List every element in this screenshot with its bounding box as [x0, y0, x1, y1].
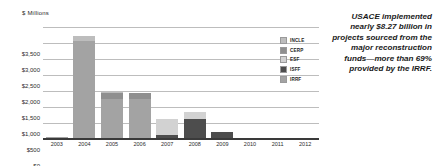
legend-item-cerp: CERP [280, 46, 326, 56]
x-axis-tick-label: 2012 [291, 141, 319, 147]
y-axis-tick-label: $1,500 [2, 115, 40, 121]
legend-swatch-icon [280, 47, 287, 54]
bar-segment-isff [184, 119, 206, 139]
chart-page: $ Millions $0$500$1,000$1,500$2,000$2,50… [0, 0, 435, 166]
legend-item-label: INCLE [290, 38, 305, 43]
legend-item-isff: ISFF [280, 65, 326, 75]
y-axis-tick-label: $2,000 [2, 99, 40, 105]
y-axis-tick-label: $3,000 [2, 67, 40, 73]
bar-chart: $ Millions $0$500$1,000$1,500$2,000$2,50… [0, 0, 330, 166]
legend-item-label: ISFF [290, 67, 301, 72]
bar-2007 [156, 27, 178, 139]
legend-item-esf: ESF [280, 55, 326, 65]
y-axis-tick-labels: $0$500$1,000$1,500$2,000$2,500$3,000$3,5… [0, 27, 40, 139]
bar-2005 [101, 27, 123, 139]
x-axis-tick-label: 2003 [43, 141, 71, 147]
bar-segment-incle [101, 91, 123, 93]
bar-segment-cerp [129, 93, 151, 99]
bar-2009 [211, 27, 233, 139]
bar-2006 [129, 27, 151, 139]
legend-swatch-icon [280, 76, 287, 83]
legend-item-label: IRRF [290, 77, 301, 82]
legend-item-label: ESF [290, 57, 299, 62]
bar-segment-irrf [73, 41, 95, 139]
legend-item-irrf: IRRF [280, 74, 326, 84]
y-axis-tick-label: $3,500 [2, 51, 40, 57]
x-axis-tick-label: 2009 [209, 141, 237, 147]
y-axis-tick-label: $1,000 [2, 131, 40, 137]
x-axis-tick-label: 2011 [264, 141, 292, 147]
bar-segment-irrf [129, 99, 151, 139]
bar-segment-incle [73, 36, 95, 41]
bar-2008 [184, 27, 206, 139]
y-axis-tick-label: $500 [2, 147, 40, 153]
bar-segment-esf [156, 119, 178, 134]
x-axis-tick-label: 2006 [126, 141, 154, 147]
x-axis-tick-label: 2005 [98, 141, 126, 147]
x-axis-tick-labels: 2003200420052006200720082009201020112012 [43, 141, 319, 153]
legend-item-label: CERP [290, 48, 303, 53]
y-axis-title: $ Millions [22, 10, 49, 16]
bar-2004 [73, 27, 95, 139]
chart-legend: INCLECERPESFISFFIRRF [280, 36, 326, 84]
x-axis-tick-label: 2004 [71, 141, 99, 147]
x-axis-tick-label: 2008 [181, 141, 209, 147]
x-axis-line [43, 138, 319, 140]
bar-2010 [239, 27, 261, 139]
x-axis-tick-label: 2010 [236, 141, 264, 147]
plot-area [43, 27, 319, 139]
y-axis-tick-label: $0 [2, 163, 40, 167]
legend-swatch-icon [280, 37, 287, 44]
legend-swatch-icon [280, 56, 287, 63]
legend-item-incle: INCLE [280, 36, 326, 46]
x-axis-tick-label: 2007 [153, 141, 181, 147]
y-axis-tick-label: $2,500 [2, 83, 40, 89]
bar-2003 [46, 27, 68, 139]
callout-text: USACE implemented nearly $8.27 billion i… [332, 12, 432, 74]
bar-segment-irrf [101, 99, 123, 139]
legend-swatch-icon [280, 66, 287, 73]
bar-segment-cerp [101, 93, 123, 99]
bar-segment-esf [184, 112, 206, 120]
